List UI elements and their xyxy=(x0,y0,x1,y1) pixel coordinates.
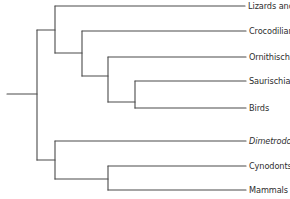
taxon-label-cynodonts: Cynodonts xyxy=(249,161,290,171)
taxon-label-crocodilians: Crocodilians xyxy=(249,26,290,36)
taxon-label-mammals: Mammals xyxy=(249,185,288,195)
cladogram xyxy=(0,0,290,199)
taxon-label-lizards-and-snakes: Lizards and snakes xyxy=(248,1,290,11)
taxon-label-dimetrodon: Dimetrodon xyxy=(249,136,290,146)
taxon-label-ornithischian-dinosaurs: Ornithischian dinosaurs xyxy=(249,52,290,62)
taxon-label-birds: Birds xyxy=(249,103,269,113)
taxon-label-saurischian-dinosaurs: Saurischian dinosaurs xyxy=(249,76,290,86)
